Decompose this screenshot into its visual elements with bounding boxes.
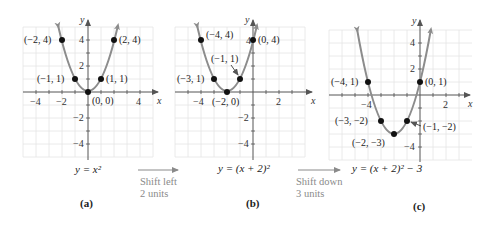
equation-a-text: y = x² <box>74 163 102 175</box>
x-axis-label-a: x <box>156 95 162 106</box>
panel-label-c: (c) <box>413 200 426 213</box>
point-label-b-0: (−4, 4) <box>206 29 233 41</box>
panel-b: −4 2 4 −2 −4 x y (−4, 4) (0, 4) (−1, 1) … <box>175 14 316 210</box>
y-axis-label-c: y <box>411 15 417 26</box>
shift-down-line2: 3 units <box>296 188 324 199</box>
shift-left-line2: 2 units <box>140 188 168 199</box>
point-label-a-4: (0, 0) <box>92 95 114 107</box>
y-tick-2-c: 2 <box>410 63 415 74</box>
point-label-a-0: (−2, 4) <box>24 34 51 46</box>
point-label-a-3: (1, 1) <box>106 73 128 85</box>
point-label-c-2: (−3, −2) <box>335 115 368 127</box>
x-tick-2-b: 2 <box>276 96 281 107</box>
shift-left-line1: Shift left <box>140 176 177 187</box>
point-label-b-1: (0, 4) <box>258 34 280 46</box>
pointer-arrow-b <box>231 65 238 75</box>
transition-shift-down: Shift down 3 units <box>296 170 343 199</box>
y-tick-neg2-b: −2 <box>238 112 249 123</box>
y-tick-4-c: 4 <box>410 37 415 48</box>
x-axis-label-b: x <box>310 95 316 106</box>
point-label-b-3: (−3, 1) <box>177 73 204 85</box>
point-label-c-4: (−2, −3) <box>352 137 385 149</box>
y-tick-2-a: 2 <box>79 60 84 71</box>
y-tick-4-a: 4 <box>79 34 84 45</box>
x-tick-2-c: 2 <box>443 99 448 110</box>
point-label-b-4: (−2, 0) <box>212 96 239 108</box>
y-axis-label-a: y <box>79 14 85 25</box>
equation-b-text: y = (x + 2)² <box>217 162 270 175</box>
y-axis-label-b: y <box>244 14 250 25</box>
transition-shift-left: Shift left 2 units <box>138 170 178 199</box>
y-tick-neg2-a: −2 <box>73 112 84 123</box>
x-tick-neg4-c: −4 <box>361 99 372 110</box>
equation-b: y = (x + 2)² <box>217 162 270 175</box>
equation-a: y = x² <box>74 163 102 175</box>
point-label-a-1: (2, 4) <box>119 34 141 46</box>
x-tick-neg4-b: −4 <box>193 96 204 107</box>
panel-c: −4 2 4 2 −4 x y (−4, 1) (0, 1) (−3, −2) … <box>329 15 473 213</box>
point-label-b-2: (−1, 1) <box>211 53 238 65</box>
y-tick-neg4-c: −4 <box>404 141 415 152</box>
shift-down-line1: Shift down <box>296 176 343 187</box>
panel-label-b: (b) <box>246 197 260 210</box>
equation-c-text: y = (x + 2)² − 3 <box>351 162 423 175</box>
x-tick-neg2-a: −2 <box>56 96 67 107</box>
point-label-c-1: (0, 1) <box>425 76 447 88</box>
y-tick-neg4-a: −4 <box>73 138 84 149</box>
equation-c: y = (x + 2)² − 3 <box>351 162 423 175</box>
panel-label-a: (a) <box>80 197 93 210</box>
x-axis-label-c: x <box>467 98 473 109</box>
x-tick-neg4-a: −4 <box>30 96 41 107</box>
y-tick-neg4-b: −4 <box>238 138 249 149</box>
figure-canvas: −4 −2 4 4 2 −2 −4 x y (−2, 4) (2, 4) (−1… <box>0 0 494 227</box>
point-label-c-3: (−1, −2) <box>423 121 456 133</box>
point-label-a-2: (−1, 1) <box>37 73 64 85</box>
x-tick-4-a: 4 <box>136 96 141 107</box>
point-label-c-0: (−4, 1) <box>331 76 358 88</box>
